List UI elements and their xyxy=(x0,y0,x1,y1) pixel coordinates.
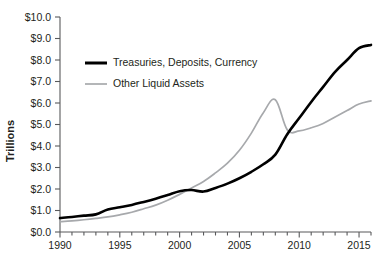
x-tick-label: 1995 xyxy=(108,239,132,251)
y-tick-label: $0.0 xyxy=(31,226,52,238)
x-tick-label: 2000 xyxy=(168,239,192,251)
y-tick-label: $2.0 xyxy=(31,183,52,195)
x-tick-label: 2005 xyxy=(228,239,252,251)
y-tick-label: $1.0 xyxy=(31,204,52,216)
legend-label-2: Other Liquid Assets xyxy=(113,77,204,89)
y-tick-label: $7.0 xyxy=(31,75,52,87)
x-tick-label: 1990 xyxy=(48,239,72,251)
y-tick-label: $6.0 xyxy=(31,97,52,109)
y-tick-label: $4.0 xyxy=(31,140,52,152)
y-tick-label: $8.0 xyxy=(31,54,52,66)
y-tick-label: $5.0 xyxy=(31,118,52,130)
chart-container: Trillions $0.0$1.0$2.0$3.0$4.0$5.0$6.0$7… xyxy=(0,0,387,265)
y-axis-title: Trillions xyxy=(4,120,16,162)
chart-background xyxy=(0,0,387,265)
x-tick-label: 2010 xyxy=(288,239,312,251)
x-tick-label: 2015 xyxy=(347,239,371,251)
y-tick-label: $10.0 xyxy=(25,11,51,23)
legend-label-1: Treasuries, Deposits, Currency xyxy=(113,56,258,68)
y-tick-label: $9.0 xyxy=(31,32,52,44)
line-chart-svg: Trillions $0.0$1.0$2.0$3.0$4.0$5.0$6.0$7… xyxy=(0,0,387,265)
y-tick-label: $3.0 xyxy=(31,161,52,173)
